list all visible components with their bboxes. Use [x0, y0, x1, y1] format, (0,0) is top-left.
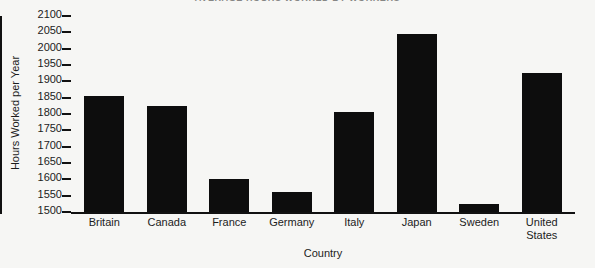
x-axis-tick-label: Italy	[323, 216, 386, 229]
bars-group	[73, 16, 573, 212]
bar	[209, 179, 249, 212]
x-axis-tick-label: Sweden	[448, 216, 511, 229]
x-axis-tick-label-line: States	[511, 229, 574, 242]
y-axis-line	[0, 16, 2, 214]
y-axis-tick-mark	[62, 97, 71, 99]
bar	[522, 73, 562, 212]
x-axis-line	[71, 212, 575, 214]
bar	[334, 112, 374, 212]
bar	[84, 96, 124, 212]
bar	[397, 34, 437, 212]
y-axis-tick-mark	[62, 178, 71, 180]
y-axis-tick-label: 1650	[38, 155, 62, 167]
y-axis-tick-label: 1850	[38, 90, 62, 102]
x-axis-tick-label: UnitedStates	[511, 216, 574, 242]
bar	[147, 106, 187, 212]
y-axis-tick-label: 2000	[38, 41, 62, 53]
bar	[459, 204, 499, 212]
y-axis-tick-label: 1800	[38, 106, 62, 118]
x-axis-tick-label-line: Germany	[261, 216, 324, 229]
y-axis-tick-mark	[62, 31, 71, 33]
x-axis-tick-label-line: United	[511, 216, 574, 229]
y-axis-tick-label: 1500	[38, 204, 62, 216]
y-axis-tick-mark	[62, 80, 71, 82]
y-axis-tick-label: 1550	[38, 188, 62, 200]
chart-title: AVERAGE HOURS WORKED BY WORKERS	[0, 0, 595, 1]
y-axis-tick-mark	[62, 113, 71, 115]
x-axis-tick-label-line: Britain	[73, 216, 136, 229]
y-axis-tick-mark	[62, 211, 71, 213]
y-axis-title: Hours Worked per Year	[9, 18, 21, 208]
x-axis-tick-label-line: Italy	[323, 216, 386, 229]
bar	[272, 192, 312, 212]
y-axis-tick-mark	[62, 129, 71, 131]
x-axis-tick-label: Japan	[386, 216, 449, 229]
x-axis-tick-label: France	[198, 216, 261, 229]
y-axis-tick-label: 1900	[38, 73, 62, 85]
x-axis-tick-label-line: Sweden	[448, 216, 511, 229]
x-axis-tick-label-line: Canada	[136, 216, 199, 229]
x-axis-title: Country	[71, 247, 575, 259]
x-axis-tick-label: Canada	[136, 216, 199, 229]
y-axis-tick-mark	[62, 162, 71, 164]
y-axis-tick-mark	[62, 64, 71, 66]
y-axis-tick-label: 2050	[38, 24, 62, 36]
y-axis-tick-mark	[62, 146, 71, 148]
y-axis-tick-label: 1600	[38, 171, 62, 183]
y-axis-tick-mark	[62, 15, 71, 17]
x-axis-tick-label-line: France	[198, 216, 261, 229]
y-axis-tick-label: 2100	[38, 8, 62, 20]
y-axis-tick-label: 1700	[38, 139, 62, 151]
bar-chart-figure: AVERAGE HOURS WORKED BY WORKERS Hours Wo…	[0, 0, 595, 268]
y-axis-tick-mark	[62, 48, 71, 50]
y-axis-tick-label: 1750	[38, 122, 62, 134]
y-axis-tick-mark	[62, 195, 71, 197]
x-axis-tick-label: Britain	[73, 216, 136, 229]
y-axis-tick-label: 1950	[38, 57, 62, 69]
x-axis-tick-label-line: Japan	[386, 216, 449, 229]
x-axis-tick-label: Germany	[261, 216, 324, 229]
